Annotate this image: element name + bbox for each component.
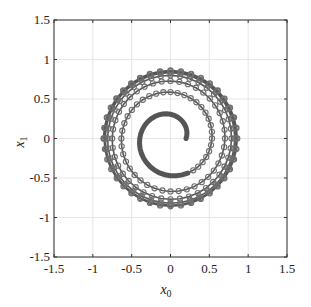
- y-tick-labels: -1.5-1-0.500.511.5: [29, 12, 50, 264]
- y-tick-label: 1.5: [34, 12, 50, 27]
- x-tick-label: 0.5: [201, 261, 217, 276]
- y-tick-label: 0.5: [34, 91, 50, 106]
- x-tick-label: 1.5: [279, 261, 295, 276]
- y-tick-label: -1: [39, 210, 50, 225]
- trajectory-dense-start: [140, 114, 188, 176]
- x-tick-label: 1: [245, 261, 252, 276]
- y-tick-label: 0: [44, 131, 51, 146]
- y-axis-label: x1: [12, 136, 29, 148]
- y-tick-label: -0.5: [29, 170, 50, 185]
- grid-lines: [54, 20, 287, 257]
- y-tick-label: -1.5: [29, 249, 50, 264]
- x-tick-label: -0.5: [121, 261, 142, 276]
- y-tick-label: 1: [44, 52, 51, 67]
- x-axis-label: x0: [159, 282, 171, 299]
- x-tick-labels: -1.5-1-0.500.511.5: [44, 261, 295, 276]
- x-tick-label: -1: [87, 261, 98, 276]
- x-tick-label: 0: [167, 261, 174, 276]
- phase-plot: -1.5-1-0.500.511.5 -1.5-1-0.500.511.5 x0…: [0, 0, 311, 307]
